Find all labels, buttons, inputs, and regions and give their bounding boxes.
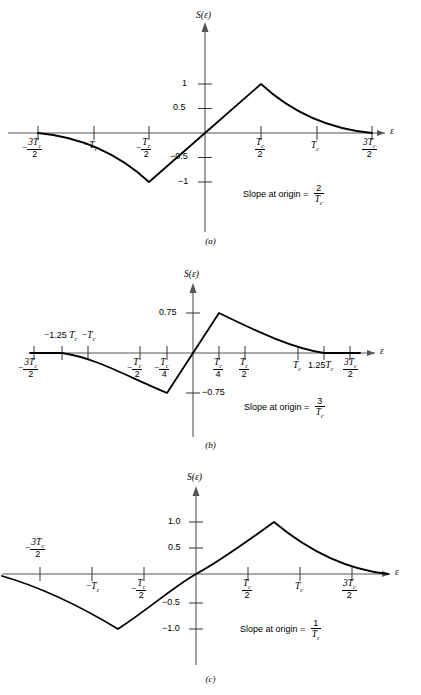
y-tick-label-c-neg1-0: −1.0 — [162, 624, 180, 633]
y-tick-label-c-1-0: 1.0 — [168, 517, 181, 526]
x-tick-label-a-tc: Tc — [311, 141, 319, 152]
x-axis-title-a: ε — [390, 126, 394, 136]
chart-panel-b: S(ε) ε 0.75 −0.75 −3Tc2 −1.25 Tc −Tc −Tc… — [0, 255, 421, 460]
y-tick-label-a-neg1: −1 — [178, 177, 188, 186]
x-tick-label-b-neg3tc2: −3Tc2 — [18, 358, 38, 379]
x-tick-label-a-neg3tc2: −3Tc2 — [22, 138, 42, 159]
x-tick-label-c-negtc: −Tc — [86, 582, 99, 593]
x-tick-label-b-tc: Tc — [293, 361, 301, 372]
slope-annotation-c: Slope at origin = 1 Tc — [240, 618, 321, 641]
slope-annotation-a: Slope at origin = 2 Tc — [243, 183, 324, 206]
x-tick-label-b-tc4: Tc4 — [213, 358, 223, 379]
panel-caption-a: (a) — [0, 236, 421, 246]
x-tick-label-c-tc: Tc — [295, 582, 303, 593]
x-tick-label-b-negtc: −Tc — [82, 331, 95, 342]
y-axis-title-c: S(ε) — [187, 472, 202, 482]
y-axis-arrow-b — [190, 283, 197, 293]
chart-c-svg — [0, 460, 421, 695]
chart-panel-c: S(ε) ε 1.0 0.5 −0.5 −1.0 −3Tc2 −Tc −Tc2 … — [0, 460, 421, 695]
y-tick-label-a-1: 1 — [182, 79, 187, 88]
slope-annotation-b: Slope at origin = 3 Tc — [244, 396, 325, 419]
x-tick-label-a-negtc: −Tc — [84, 141, 97, 152]
x-tick-label-c-3tc2: 3Tc2 — [342, 579, 357, 600]
x-tick-label-b-negtc2: −Tc2 — [127, 358, 142, 379]
x-tick-label-b-neg1-25tc: −1.25 Tc — [44, 331, 77, 342]
y-axis-title-b: S(ε) — [184, 269, 199, 279]
panel-caption-b: (b) — [0, 440, 421, 450]
chart-b-svg — [0, 255, 421, 460]
x-tick-label-b-tc2: Tc2 — [239, 358, 249, 379]
x-tick-label-b-negtc4: −Tc4 — [154, 358, 169, 379]
y-axis-title-a: S(ε) — [196, 10, 211, 20]
x-tick-label-b-3tc2: 3Tc2 — [343, 358, 358, 379]
y-axis-arrow-a — [202, 22, 209, 32]
y-tick-label-c-neg0-5: −0.5 — [162, 598, 180, 607]
x-tick-label-a-3tc2: 3Tc2 — [362, 138, 377, 159]
chart-a-svg — [0, 0, 421, 255]
y-tick-label-c-0-5: 0.5 — [168, 543, 181, 552]
x-axis-arrow-b — [367, 350, 375, 356]
y-tick-label-a-0-5: 0.5 — [173, 103, 186, 112]
x-tick-label-a-tc2: Tc2 — [255, 138, 265, 159]
y-tick-label-a-neg0-5: −0.5 — [170, 152, 188, 161]
x-tick-label-c-negtc2: −Tc2 — [131, 579, 146, 600]
x-tick-label-b-1-25tc: 1.25Tc — [308, 361, 334, 372]
x-axis-title-c: ε — [395, 567, 399, 577]
y-tick-label-b-neg0-75: −0.75 — [202, 388, 225, 397]
chart-panel-a: S(ε) ε 1 0.5 −0.5 −1 −3Tc2 −Tc −Tc2 Tc2 … — [0, 0, 421, 255]
x-tick-label-c-tc2: Tc2 — [242, 579, 252, 600]
panel-caption-c: (c) — [0, 674, 421, 684]
y-axis-arrow-c — [193, 486, 200, 496]
y-tick-label-b-0-75: 0.75 — [159, 308, 177, 317]
x-tick-label-a-negtc2: −Tc2 — [136, 138, 151, 159]
x-tick-label-c-neg3tc2: −3Tc2 — [25, 538, 45, 559]
x-axis-arrow-a — [377, 130, 385, 136]
curve-c — [2, 522, 388, 629]
x-axis-title-b: ε — [380, 346, 384, 356]
